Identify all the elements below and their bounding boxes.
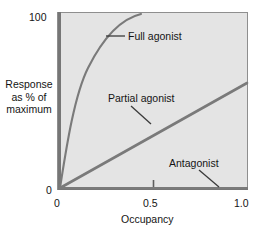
x-tick-label-1.0: 1.0: [234, 198, 249, 209]
y-tick-label-0: 0: [46, 185, 52, 196]
x-axis-title: Occupancy: [121, 214, 174, 225]
y-axis-title: Response as % of maximum: [3, 78, 55, 116]
x-tick-label-0: 0: [54, 198, 60, 209]
y-tick-label-100: 100: [29, 12, 47, 23]
label-full-agonist: Full agonist: [128, 31, 182, 42]
label-partial-agonist: Partial agonist: [108, 93, 175, 104]
y-axis-title-line-3: maximum: [3, 103, 55, 116]
y-axis-title-line-2: as % of: [3, 91, 55, 104]
label-antagonist: Antagonist: [169, 158, 219, 169]
x-tick-label-0.5: 0.5: [143, 198, 158, 209]
y-axis-title-line-1: Response: [3, 78, 55, 91]
leader-partial-agonist: [131, 106, 151, 124]
dose-occupancy-response-chart: 100 0 0 0.5 1.0 Occupancy Response as % …: [0, 0, 262, 234]
leader-antagonist: [199, 170, 219, 187]
